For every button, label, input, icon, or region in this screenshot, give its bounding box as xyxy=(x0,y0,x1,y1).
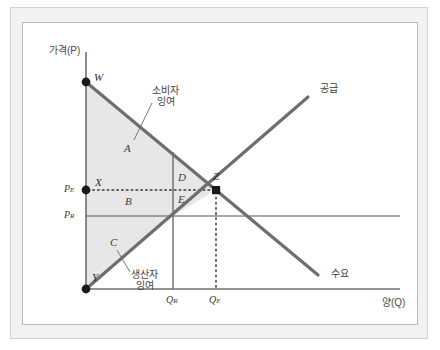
demand-curve-label: 수요 xyxy=(331,268,349,279)
point-z-marker xyxy=(212,186,220,194)
region-label-a: A xyxy=(124,142,131,154)
point-y-marker xyxy=(82,285,91,294)
price-tick-pr: PR xyxy=(64,209,74,221)
producer-surplus-note-line2: 잉여 xyxy=(131,280,158,291)
point-w-marker xyxy=(82,78,91,87)
producer-surplus-note-line1: 생산자 xyxy=(131,269,158,280)
region-label-c: C xyxy=(110,236,117,248)
price-tick-pe-sub: E xyxy=(70,186,74,194)
point-label-y: Y xyxy=(92,271,98,283)
point-label-x: X xyxy=(95,176,102,188)
price-tick-pe: PE xyxy=(64,183,74,195)
producer-surplus-note: 생산자 잉여 xyxy=(131,269,158,291)
quantity-tick-qr-sub: R xyxy=(173,297,177,305)
point-label-w: W xyxy=(94,71,103,83)
price-tick-pr-sub: R xyxy=(70,212,74,220)
region-label-d: D xyxy=(178,171,186,183)
supply-curve-label: 공급 xyxy=(320,83,338,94)
point-x-marker xyxy=(82,186,91,195)
quantity-tick-qe-sub: E xyxy=(216,297,220,305)
point-label-z: Z xyxy=(213,170,219,182)
quantity-tick-qr: QR xyxy=(166,294,178,306)
consumer-surplus-note: 소비자 잉여 xyxy=(152,85,179,107)
region-label-b: B xyxy=(125,195,132,207)
region-label-e: E xyxy=(178,193,185,205)
consumer-surplus-note-line2: 잉여 xyxy=(152,96,179,107)
figure-root: 가격(P) 양(Q) W X Y Z A B C D E PE PR QR QE… xyxy=(0,0,440,350)
x-axis-label: 양(Q) xyxy=(382,297,405,308)
consumer-surplus-note-line1: 소비자 xyxy=(152,85,179,96)
y-axis-label: 가격(P) xyxy=(49,45,80,56)
quantity-tick-qe: QE xyxy=(209,294,221,306)
